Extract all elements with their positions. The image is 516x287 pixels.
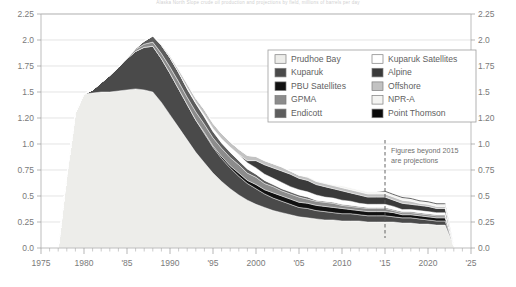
legend-item-alpine[interactable]: Alpine (372, 67, 412, 77)
legend-label: Endicott (291, 108, 323, 118)
y-axis-label-right: 1.20 (478, 113, 495, 123)
legend-swatch (275, 55, 286, 64)
y-axis-label-left: 1.0 (22, 139, 34, 149)
y-axis-label-right: 0.25 (478, 217, 495, 227)
x-axis-label: 2020 (419, 258, 438, 268)
legend-label: Alpine (388, 67, 412, 77)
y-axis-label-left: 0.0 (22, 243, 34, 253)
x-axis-label: '95 (207, 258, 218, 268)
x-axis-label: '85 (121, 258, 132, 268)
x-axis-label: 1980 (75, 258, 94, 268)
stacked-area-chart: 0.00.00.250.250.50.50.750.751.01.01.201.… (0, 0, 516, 287)
y-axis-label-left: 2.25 (17, 9, 34, 19)
legend-label: GPMA (291, 94, 317, 104)
legend-label: Kuparuk Satellites (388, 54, 457, 64)
y-axis-label-right: 1.5 (478, 87, 490, 97)
legend-swatch (372, 109, 383, 118)
y-axis-label-left: 1.75 (17, 61, 34, 71)
legend-swatch (275, 96, 286, 105)
legend-label: PBU Satellites (291, 81, 346, 91)
legend-swatch (372, 96, 383, 105)
x-axis-label: '15 (379, 258, 390, 268)
legend-item-pbu-satellites[interactable]: PBU Satellites (275, 81, 346, 91)
legend-item-gpma[interactable]: GPMA (275, 94, 317, 104)
x-axis-label: 2000 (247, 258, 266, 268)
legend-label: Prudhoe Bay (291, 54, 341, 64)
y-axis-label-left: 2.0 (22, 35, 34, 45)
x-axis-label: '25 (465, 258, 476, 268)
legend-item-endicott[interactable]: Endicott (275, 108, 323, 118)
y-axis-label-left: 1.20 (17, 113, 34, 123)
legend-item-npr-a[interactable]: NPR-A (372, 94, 415, 104)
x-axis-label: 1990 (161, 258, 180, 268)
legend-swatch (275, 109, 286, 118)
x-axis-label: 1975 (32, 258, 51, 268)
projection-note-line-1: Figures beyond 2015 (391, 146, 459, 155)
legend-label: Offshore (388, 81, 421, 91)
x-axis-label: 2010 (333, 258, 352, 268)
y-axis-label-right: 0.75 (478, 165, 495, 175)
chart-legend[interactable]: Prudhoe BayKuparukPBU SatellitesGPMAEndi… (268, 50, 476, 122)
y-axis-label-right: 1.0 (478, 139, 490, 149)
y-axis-label-right: 2.25 (478, 9, 495, 19)
legend-item-point-thomson[interactable]: Point Thomson (372, 108, 446, 118)
legend-label: NPR-A (388, 94, 415, 104)
y-axis-label-left: 0.75 (17, 165, 34, 175)
legend-swatch (372, 82, 383, 91)
y-axis-label-right: 0.0 (478, 243, 490, 253)
y-axis-label-left: 0.5 (22, 191, 34, 201)
legend-swatch (275, 68, 286, 77)
y-axis-label-right: 1.75 (478, 61, 495, 71)
y-axis-label-left: 0.25 (17, 217, 34, 227)
legend-swatch (372, 55, 383, 64)
legend-item-kuparuk[interactable]: Kuparuk (275, 67, 324, 77)
y-axis-label-right: 0.5 (478, 191, 490, 201)
legend-label: Kuparuk (291, 67, 324, 77)
legend-item-prudhoe-bay[interactable]: Prudhoe Bay (275, 54, 341, 64)
projection-note-line-2: are projections (391, 156, 439, 165)
y-axis-label-right: 2.0 (478, 35, 490, 45)
legend-swatch (275, 82, 286, 91)
legend-swatch (372, 68, 383, 77)
x-axis-label: '05 (293, 258, 304, 268)
legend-item-offshore[interactable]: Offshore (372, 81, 421, 91)
legend-label: Point Thomson (388, 108, 446, 118)
y-axis-label-left: 1.5 (22, 87, 34, 97)
chart-container: Alaska North Slope crude oil production … (0, 0, 516, 287)
